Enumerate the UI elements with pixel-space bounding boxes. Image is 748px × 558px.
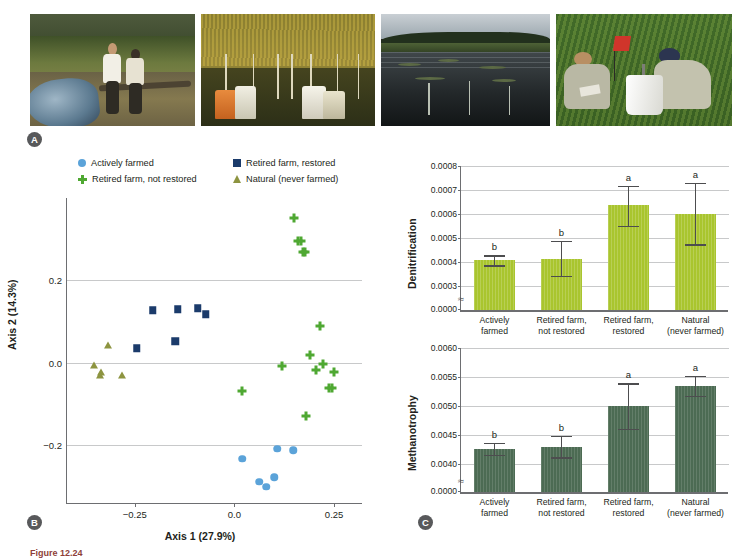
scatter-point-square [172,337,180,345]
scatter-point-square [149,306,157,314]
bar-gridline [461,377,729,378]
bar-y-tick-label: 0.0040 [431,459,457,469]
bar-y-tick-label: 0.0000 [431,304,457,314]
bar-y-tick-label: 0.0055 [431,372,457,382]
legend-item-actively-farmed: Actively farmed [78,158,233,168]
bar-x-axis [460,492,728,494]
legend-label-2: Retired farm, not restored [92,174,197,184]
error-cap-0-lower [484,455,506,456]
panel-c-badge-text: C [418,515,433,530]
scatter-point-cross [306,351,315,360]
bar-y-tick-label: 0.0006 [431,209,457,219]
significance-letter-3: a [693,362,698,373]
scatter-point-cross [328,383,337,392]
bar-y-tick-label: 0.0007 [431,185,457,195]
error-cap-0-upper [484,443,506,444]
error-cap-2-lower [618,226,640,227]
bar-y-tick-label: 0.0060 [431,343,457,353]
bar-0 [474,260,516,310]
significance-letter-2: a [626,369,631,380]
scatter-point-circle [290,446,298,454]
significance-letter-0: b [492,429,497,440]
bar-y-tick-mark [458,190,462,191]
scatter-x-tick-label: 0.0 [228,509,241,520]
significance-letter-1: b [559,422,564,433]
bar-y-tick-mark [458,406,462,407]
scatter-point-cross [330,367,339,376]
scatter-point-cross [297,236,306,245]
scatter-legend: Actively farmed Retired farm, restored R… [78,158,378,194]
scatter-gridline [67,445,362,446]
bar-y-tick-label: 0.0005 [431,233,457,243]
legend-label-1: Retired farm, restored [246,158,335,168]
axis-break-icon: ≈ [458,294,464,304]
bar-category-label-3: Natural(never farmed) [655,315,736,337]
photo-gas-chambers-marsh [201,14,375,126]
panel-b-ordination-scatter: Actively farmed Retired farm, restored R… [0,150,400,557]
error-bar-3 [695,376,696,396]
bar-y-tick-mark [458,238,462,239]
scatter-x-tick-label: −0.25 [123,509,147,520]
significance-letter-0: b [492,241,497,252]
triangle-marker-icon [233,175,241,183]
bar-y-tick-mark [458,435,462,436]
error-cap-3-upper [685,376,707,377]
bar-y-tick-label: 0.0008 [431,161,457,171]
error-cap-0-upper [484,255,506,256]
legend-label-0: Actively farmed [91,158,154,168]
panel-label-c: C [418,515,433,530]
scatter-x-tick [135,503,136,507]
bar-gridline [461,166,729,167]
cross-marker-icon [78,175,87,184]
scatter-x-tick-label: 0.25 [325,509,344,520]
scatter-point-circle [239,455,247,463]
bar-3 [675,386,717,492]
scatter-y-axis-label: Axis 2 (14.3%) [6,279,18,350]
error-cap-2-lower [618,429,640,430]
error-bar-1 [561,436,562,458]
legend-label-3: Natural (never farmed) [246,174,338,184]
error-cap-3-lower [685,396,707,397]
scatter-y-tick-label: −0.2 [43,440,62,451]
scatter-point-cross [290,213,299,222]
bar-x-axis [460,310,728,312]
scatter-point-circle [271,473,279,481]
bar-y-tick-mark [458,166,462,167]
panel-b-badge-text: B [27,515,42,530]
bar-plot-area: 0.00000.00030.00040.00050.00060.00070.00… [460,166,729,291]
axis-break-icon: ≈ [458,476,464,486]
scatter-point-triangle [104,341,112,348]
panel-label-b: B [27,515,42,530]
error-bar-1 [561,241,562,276]
scatter-point-cross [278,361,287,370]
legend-item-retired-not-restored: Retired farm, not restored [78,174,233,184]
photo-flooded-wetland [381,14,550,126]
scatter-point-cross [318,360,327,369]
figure-caption: Figure 12.24 [30,548,83,558]
scatter-point-cross [316,321,325,330]
bar-y-tick-mark [458,464,462,465]
significance-letter-2: a [626,172,631,183]
scatter-point-cross [302,411,311,420]
bar-category-label-3: Natural(never farmed) [655,497,736,519]
scatter-x-tick [334,503,335,507]
error-cap-3-lower [685,244,707,245]
panel-a-badge-text: A [27,132,42,147]
bar-y-tick-label: 0.0000 [431,486,457,496]
error-bar-0 [494,443,495,455]
scatter-point-circle [274,445,282,453]
legend-item-natural: Natural (never farmed) [233,174,338,184]
bar-y-axis-label: Methanotrophy [406,395,418,471]
scatter-point-square [133,345,141,353]
error-cap-2-upper [618,186,640,187]
panel-label-a: A [27,132,42,147]
circle-marker-icon [78,159,86,167]
scatter-point-circle [263,483,271,491]
bar-y-tick-label: 0.0004 [431,257,457,267]
scatter-point-square [194,305,202,313]
bar-y-tick-mark [458,348,462,349]
scatter-point-square [202,310,210,318]
bar-y-axis-label: Denitrification [406,218,418,289]
methanotrophy-bar-chart: 0.00000.00400.00450.00500.00550.0060≈bAc… [400,340,748,525]
bar-y-tick-label: 0.0003 [431,281,457,291]
